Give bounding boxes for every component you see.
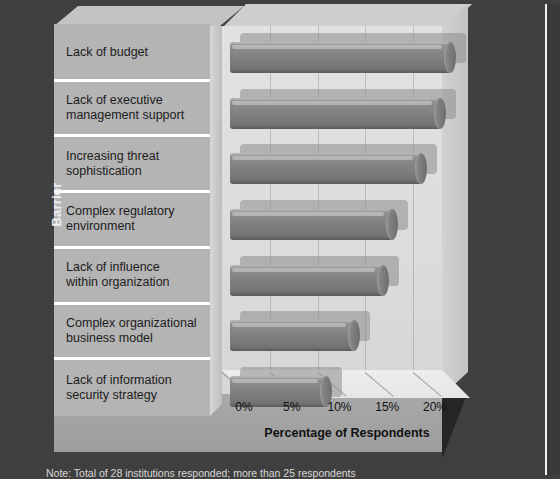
x-tick-label: 0% <box>235 400 252 414</box>
bar-body <box>230 98 440 129</box>
category-panel-top-cap <box>44 6 244 26</box>
y-axis-title: Barrier <box>49 182 64 226</box>
bar-highlight <box>232 268 375 272</box>
category-label-text: Lack of executivemanagement support <box>66 93 184 123</box>
bar-end-cap <box>415 153 427 184</box>
category-label-row: Complex organizationalbusiness model <box>54 305 210 361</box>
category-panel-right-edge <box>210 26 222 416</box>
bar-highlight <box>232 45 442 49</box>
bar-1 <box>230 42 464 76</box>
bar-end-cap <box>377 265 389 296</box>
bar-body <box>230 42 450 73</box>
bar-5 <box>230 265 397 299</box>
bar-4 <box>230 209 406 243</box>
plot-wall-top-cap <box>222 4 472 28</box>
category-label-text: Lack of influencewithin organization <box>66 260 170 290</box>
category-label-row: Lack of informationsecurity strategy <box>54 360 210 416</box>
bar-highlight <box>232 212 384 216</box>
category-label-row: Lack of influencewithin organization <box>54 249 210 305</box>
x-tick-label: 5% <box>283 400 300 414</box>
category-label-row: Increasing threatsophistication <box>54 137 210 193</box>
gridline-20 <box>413 26 414 370</box>
bar-end-cap <box>348 320 360 351</box>
bar-end-cap <box>386 209 398 240</box>
bar-body <box>230 209 392 240</box>
bar-body <box>230 265 383 296</box>
bar-highlight <box>232 323 346 327</box>
category-label-row: Lack of executivemanagement support <box>54 82 210 138</box>
right-side-panel <box>545 4 560 475</box>
x-tick-label: 10% <box>327 400 351 414</box>
category-label-text: Increasing threatsophistication <box>66 149 159 179</box>
x-tick-label: 20% <box>423 400 447 414</box>
bar-6 <box>230 320 368 354</box>
category-label-text: Lack of budget <box>66 45 148 60</box>
bar-end-cap <box>444 42 456 73</box>
category-label-text: Lack of informationsecurity strategy <box>66 373 172 403</box>
category-label-row: Complex regulatoryenvironment <box>54 193 210 249</box>
bar-highlight <box>232 379 318 383</box>
bar-highlight <box>232 101 432 105</box>
bar-body <box>230 153 421 184</box>
bar-body <box>230 320 354 351</box>
bar-2 <box>230 98 454 132</box>
category-label-row: Lack of budget <box>54 26 210 82</box>
bar-3 <box>230 153 435 187</box>
x-axis-title: Percentage of Respondents <box>222 426 472 440</box>
chart-footnote: Note: Total of 28 institutions responded… <box>46 467 516 479</box>
bar-chart: Lack of budgetLack of executivemanagemen… <box>44 2 504 464</box>
category-label-text: Complex regulatoryenvironment <box>66 204 174 234</box>
bar-end-cap <box>434 98 446 129</box>
x-tick-label: 15% <box>375 400 399 414</box>
bar-highlight <box>232 156 413 160</box>
category-label-text: Complex organizationalbusiness model <box>66 316 197 346</box>
